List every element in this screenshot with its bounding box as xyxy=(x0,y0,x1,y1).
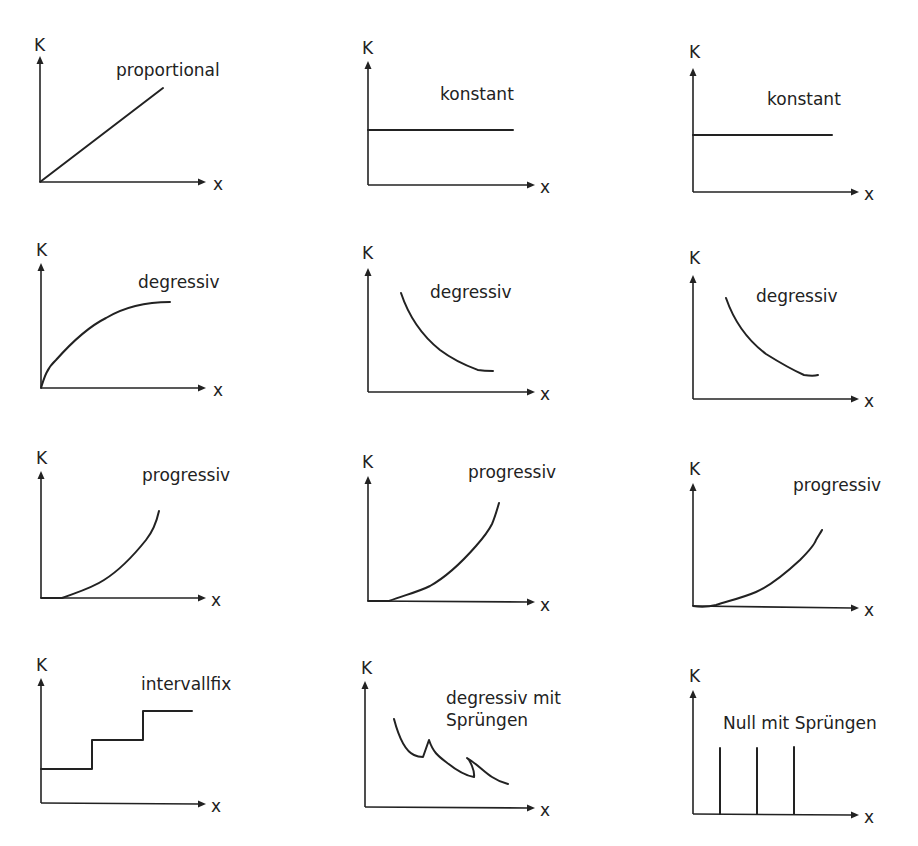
panel-degressiv-falling-1: K x degressiv xyxy=(362,243,550,404)
y-axis-arrow-icon xyxy=(690,275,697,283)
progressive-curve xyxy=(693,530,822,607)
curve-label: intervallfix xyxy=(141,674,231,694)
y-axis-arrow-icon xyxy=(690,690,697,698)
degressive-falling-curve xyxy=(726,298,818,376)
x-axis-arrow-icon xyxy=(527,182,535,189)
figure-caption-truncated xyxy=(40,838,300,846)
x-axis-label: x xyxy=(540,384,550,404)
x-axis xyxy=(365,807,528,808)
proportional-curve xyxy=(40,88,163,182)
x-axis-arrow-icon xyxy=(851,812,859,819)
panel-progressiv-2: K x progressiv xyxy=(362,452,556,615)
panel-konstant-2: K x konstant xyxy=(689,42,874,204)
x-axis xyxy=(41,803,199,804)
x-axis-label: x xyxy=(864,807,874,827)
x-axis-arrow-icon xyxy=(527,599,535,606)
y-axis-label: K xyxy=(689,248,701,268)
x-axis-arrow-icon xyxy=(851,605,859,612)
y-axis-label: K xyxy=(689,459,701,479)
y-axis-label: K xyxy=(689,42,701,62)
curve-label: degressiv xyxy=(430,282,512,302)
x-axis-arrow-icon xyxy=(851,189,859,196)
progressive-curve xyxy=(368,503,499,601)
curve-label: konstant xyxy=(440,84,514,104)
y-axis-arrow-icon xyxy=(690,68,697,76)
x-axis-arrow-icon xyxy=(198,595,206,602)
x-axis xyxy=(368,601,528,602)
y-axis-label: K xyxy=(36,240,48,260)
curve-label: progressiv xyxy=(793,475,881,495)
y-axis-arrow-icon xyxy=(365,268,372,276)
panel-degressiv-rising: K x degressiv xyxy=(36,240,223,400)
curve-label-line-1: degressiv mit xyxy=(446,688,561,708)
curve-label: degressiv xyxy=(756,286,838,306)
curve-label: progressiv xyxy=(142,465,230,485)
y-axis-arrow-icon xyxy=(362,681,369,689)
x-axis-label: x xyxy=(213,174,223,194)
x-axis xyxy=(693,814,852,815)
panel-progressiv-1: K x progressiv xyxy=(36,448,230,610)
y-axis-arrow-icon xyxy=(38,471,45,479)
x-axis-label: x xyxy=(864,391,874,411)
progressive-curve xyxy=(41,511,159,598)
x-axis-label: x xyxy=(213,380,223,400)
x-axis-arrow-icon xyxy=(198,179,206,186)
curve-label: progressiv xyxy=(468,462,556,482)
y-axis-arrow-icon xyxy=(365,61,372,69)
y-axis-label: K xyxy=(362,243,374,263)
y-axis-arrow-icon xyxy=(38,678,45,686)
panel-degressiv-mit-spruengen: K x degressiv mit Sprüngen xyxy=(361,658,561,820)
curve-label: Null mit Sprüngen xyxy=(723,713,877,733)
curve-label: konstant xyxy=(767,89,841,109)
curve-label: degressiv xyxy=(138,272,220,292)
x-axis-label: x xyxy=(211,590,221,610)
panel-progressiv-3: K x progressiv xyxy=(689,459,881,620)
x-axis-arrow-icon xyxy=(198,801,206,808)
y-axis-label: K xyxy=(36,448,48,468)
step-fixed-curve xyxy=(41,711,192,769)
x-axis xyxy=(693,606,852,608)
panel-degressiv-falling-2: K x degressiv xyxy=(689,248,874,411)
x-axis-arrow-icon xyxy=(527,805,535,812)
degressive-rising-curve xyxy=(41,302,170,388)
y-axis-arrow-icon xyxy=(365,476,372,484)
y-axis-label: K xyxy=(34,35,46,55)
panel-konstant-1: K x konstant xyxy=(362,38,550,197)
curve-label: proportional xyxy=(116,60,220,80)
x-axis-arrow-icon xyxy=(851,396,859,403)
x-axis-arrow-icon xyxy=(198,385,206,392)
x-axis-label: x xyxy=(540,177,550,197)
x-axis-label: x xyxy=(211,796,221,816)
cost-curve-figure: K x proportional K x konstant K x konsta… xyxy=(0,0,918,846)
x-axis-label: x xyxy=(864,600,874,620)
x-axis-label: x xyxy=(540,800,550,820)
x-axis-arrow-icon xyxy=(527,389,535,396)
panel-proportional: K x proportional xyxy=(34,35,223,194)
panel-null-mit-spruengen: K x Null mit Sprüngen xyxy=(689,666,877,827)
y-axis-label: K xyxy=(689,666,701,686)
cost-curves-grid: K x proportional K x konstant K x konsta… xyxy=(0,0,918,846)
curve-label-line-2: Sprüngen xyxy=(446,710,528,730)
x-axis-label: x xyxy=(864,184,874,204)
x-axis-label: x xyxy=(540,595,550,615)
y-axis-label: K xyxy=(361,658,373,678)
y-axis-arrow-icon xyxy=(37,56,44,64)
y-axis-arrow-icon xyxy=(38,263,45,271)
y-axis-label: K xyxy=(362,452,374,472)
y-axis-label: K xyxy=(36,655,48,675)
y-axis-label: K xyxy=(362,38,374,58)
degressive-falling-curve xyxy=(401,293,493,371)
panel-intervallfix: K x intervallfix xyxy=(36,655,231,816)
y-axis-arrow-icon xyxy=(690,483,697,491)
